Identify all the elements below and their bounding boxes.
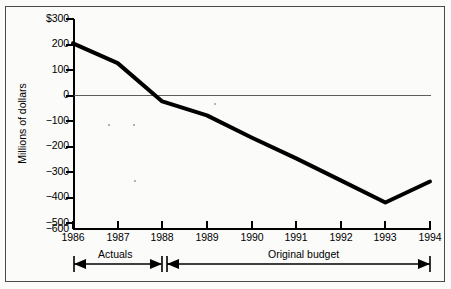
data-series-line xyxy=(0,0,451,289)
scan-artifact xyxy=(134,180,136,182)
plot-area: $300 200 100 0 −100 −200 −300 −400 −500 … xyxy=(0,0,451,289)
scan-artifact xyxy=(133,124,135,126)
chart-figure: $300 200 100 0 −100 −200 −300 −400 −500 … xyxy=(0,0,451,289)
period-brackets: Actuals Original budget xyxy=(0,254,451,276)
bracket-label-original-budget: Original budget xyxy=(265,248,342,260)
bracket-label-actuals: Actuals xyxy=(95,248,135,260)
scan-artifact xyxy=(214,103,216,105)
bracket-lines xyxy=(0,254,451,276)
scan-artifact xyxy=(108,124,110,126)
